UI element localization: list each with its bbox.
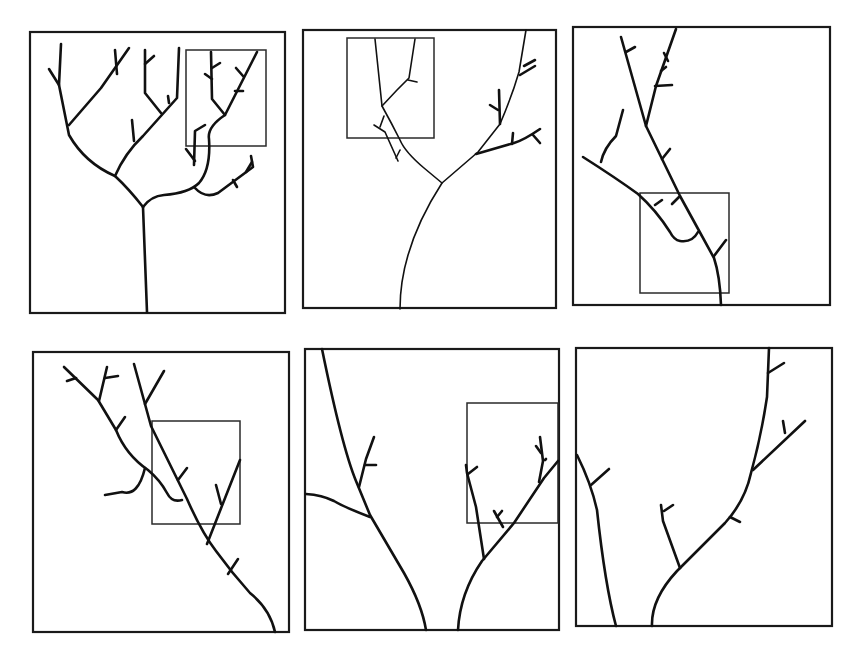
tree-diagram-4: [32, 351, 291, 634]
panel-frame: [576, 348, 832, 626]
zoom-region-box: [467, 403, 558, 523]
panel-frame: [305, 349, 559, 630]
tree-branches: [374, 30, 540, 309]
tree-branches: [583, 29, 726, 305]
panel-frame: [573, 27, 830, 305]
panel-2-zoom-level-1: [302, 28, 558, 310]
panel-5-zoom-level-4: [304, 347, 561, 632]
zoom-region-box: [152, 421, 240, 524]
tree-branches: [306, 349, 558, 630]
panel-frame: [33, 352, 289, 632]
panel-3-zoom-level-2: [572, 26, 832, 307]
tree-diagram-1: [29, 31, 287, 314]
tree-diagram-3: [572, 26, 832, 307]
tree-diagram-6: [575, 345, 834, 628]
zoom-region-box: [186, 50, 266, 146]
tree-diagram-5: [304, 347, 561, 632]
panel-4-zoom-level-3: [32, 351, 291, 634]
tree-branches: [577, 348, 805, 626]
tree-diagram-2: [302, 28, 558, 310]
panel-6-zoom-level-5: [575, 345, 834, 628]
tree-branches: [64, 364, 275, 632]
panel-frame: [303, 30, 556, 308]
tree-branches: [49, 44, 257, 312]
panel-1-full-tree: [29, 31, 287, 314]
